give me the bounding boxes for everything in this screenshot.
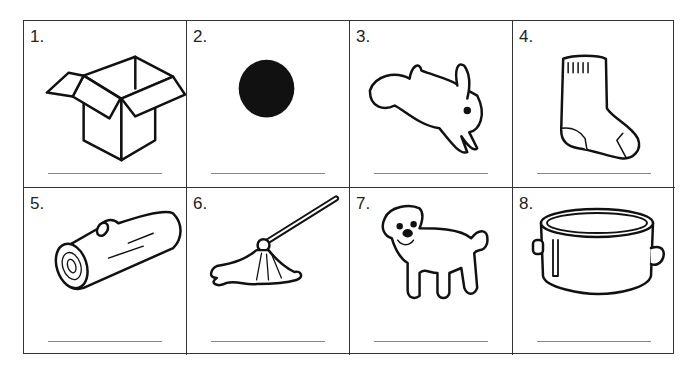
log-icon (24, 188, 186, 355)
answer-line[interactable] (48, 173, 162, 174)
sock-icon (513, 21, 675, 187)
item-cell-7: 7. (350, 188, 513, 355)
item-cell-3: 3. (350, 21, 513, 188)
box-icon (24, 21, 186, 187)
answer-line[interactable] (537, 341, 651, 342)
item-cell-5: 5. (24, 188, 187, 355)
mop-icon (187, 188, 349, 355)
rabbit-icon (350, 21, 512, 187)
item-cell-6: 6. (187, 188, 350, 355)
answer-line[interactable] (537, 173, 651, 174)
item-cell-4: 4. (513, 21, 675, 188)
dog-icon (350, 188, 512, 355)
item-cell-2: 2. (187, 21, 350, 188)
pot-icon (513, 188, 675, 355)
answer-line[interactable] (211, 173, 325, 174)
item-cell-8: 8. (513, 188, 675, 355)
dot-icon (187, 21, 349, 187)
answer-line[interactable] (211, 341, 325, 342)
answer-line[interactable] (374, 173, 488, 174)
answer-line[interactable] (374, 341, 488, 342)
picture-worksheet-grid: 1. 2. 3. (23, 20, 674, 354)
item-cell-1: 1. (24, 21, 187, 188)
answer-line[interactable] (48, 341, 162, 342)
